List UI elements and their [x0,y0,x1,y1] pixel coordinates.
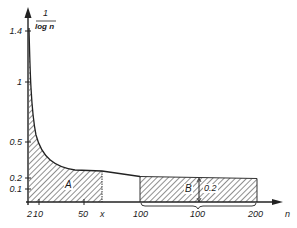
region-a-area [29,28,102,202]
y-tick-label-1-4: 1.4 [0,27,22,36]
x-tick-label-10: 10 [33,210,43,219]
y-tick-label-0-1: 0.1 [0,185,22,194]
y-axis-arrow-icon [25,7,32,18]
x-axis-arrow-icon [272,199,283,205]
y-axis-label-denominator: log n [35,23,54,31]
region-a-label: A [64,180,73,190]
y-axis-label-numerator: 1 [43,9,48,18]
diagram-canvas [0,0,297,228]
curve-1-over-log-n [29,28,140,177]
region-b-height-label: 0.2 [203,184,218,193]
region-b-label: B [184,184,193,194]
x-tick-label-50: 50 [78,210,88,219]
x-axis-label-n: n [285,210,290,219]
x-tick-label-x: x [100,210,105,219]
y-tick-label-0-2: 0.2 [0,174,22,183]
x-tick-label-200: 200 [248,210,263,219]
y-tick-label-0-5: 0.5 [0,138,22,147]
y-tick-label-1: 1 [0,78,22,87]
x-tick-label-2: 2 [27,210,32,219]
x-tick-label-100-second: 100 [190,210,205,219]
x-tick-label-100-first: 100 [133,210,148,219]
